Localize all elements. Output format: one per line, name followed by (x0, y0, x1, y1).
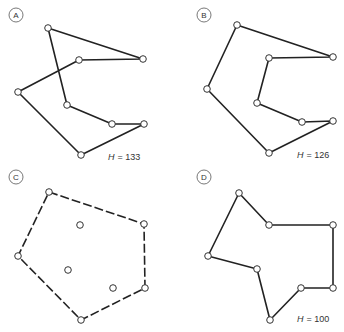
h-value-label: H= 133 (108, 152, 140, 162)
panel-label-badge: A (9, 8, 23, 22)
point-node (299, 119, 306, 126)
point-node (330, 285, 337, 292)
panel-b: BH= 126 (197, 8, 336, 160)
point-node (204, 86, 211, 93)
panel-label-text: A (13, 11, 19, 20)
panel-a: AH= 133 (9, 8, 147, 162)
point-node (254, 266, 261, 273)
panel-label-badge: D (197, 170, 211, 184)
point-node (45, 25, 52, 32)
point-node (78, 317, 85, 324)
point-node (64, 102, 71, 109)
h-value-label: H= 126 (297, 150, 329, 160)
polygon-outline (208, 193, 333, 320)
point-node (236, 190, 243, 197)
point-node (330, 118, 337, 125)
point-node (330, 222, 337, 229)
point-node (77, 222, 84, 229)
point-node (266, 222, 273, 229)
panel-d: DH= 100 (197, 170, 336, 324)
h-value-label: H= 100 (297, 314, 329, 324)
polygon-outline (18, 192, 145, 320)
panel-label-text: B (201, 11, 206, 20)
panel-label-text: D (201, 173, 207, 182)
panel-label-badge: B (197, 8, 211, 22)
point-node (141, 121, 148, 128)
point-node (110, 285, 117, 292)
point-node (141, 221, 148, 228)
point-node (76, 57, 83, 64)
panel-label-text: C (13, 173, 19, 182)
panel-c: C (9, 170, 148, 323)
point-node (254, 100, 261, 107)
point-node (65, 267, 72, 274)
point-node (267, 317, 274, 324)
polygon-outline (207, 25, 333, 153)
point-node (266, 150, 273, 157)
polygon-outline (18, 28, 144, 155)
diagram-canvas: AH= 133BH= 126CDH= 100 (0, 0, 344, 332)
point-node (330, 54, 337, 61)
point-node (15, 89, 22, 96)
point-node (140, 56, 147, 63)
point-node (205, 253, 212, 260)
point-node (109, 121, 116, 128)
point-node (234, 22, 241, 29)
panel-label-badge: C (9, 170, 23, 184)
convex-hull-diagram: AH= 133BH= 126CDH= 100 (0, 0, 344, 332)
point-node (78, 152, 85, 159)
point-node (15, 253, 22, 260)
point-node (298, 285, 305, 292)
point-node (46, 189, 53, 196)
point-node (142, 285, 149, 292)
point-node (266, 55, 273, 62)
